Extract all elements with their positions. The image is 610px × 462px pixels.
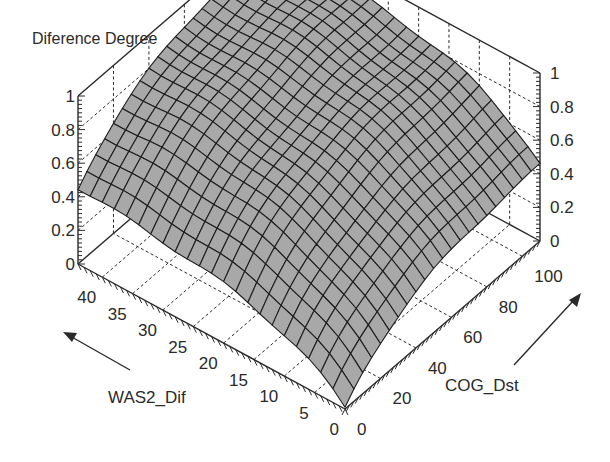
y-tick-label: 60 [463,328,482,347]
x-tick-label: 20 [199,354,218,373]
z-tick-label-right: 0.8 [550,98,574,117]
z-tick-label-right: 0.2 [550,198,574,217]
y-tick-label: 80 [499,298,518,317]
y-tick-label: 20 [392,389,411,408]
x-tick-label: 30 [138,321,157,340]
z-tick-label-left: 0.6 [51,154,75,173]
x-tick-label: 15 [229,371,248,390]
y-direction-arrow-icon [514,293,581,365]
z-tick-label-left: 1 [66,87,75,106]
y-tick-label: 100 [534,267,562,286]
surface-chart: 000.20.20.40.40.60.60.80.811051015202530… [0,0,610,462]
x-tick-label: 25 [168,338,187,357]
x-tick-label: 10 [259,387,278,406]
x-axis-label: WAS2_Dif [108,388,186,407]
y-tick-label: 0 [357,420,366,439]
z-tick-label-right: 1 [550,64,559,83]
z-tick-label-left: 0.8 [51,121,75,140]
y-axis-label: COG_Dst [445,376,519,395]
x-tick-label: 0 [330,420,339,439]
z-tick-label-right: 0.4 [550,165,574,184]
z-tick-label-left: 0.2 [51,221,75,240]
x-tick-label: 5 [299,404,308,423]
x-tick-label: 40 [77,288,96,307]
z-tick-label-left: 0.4 [51,188,75,207]
z-tick-label-left: 0 [66,255,75,274]
z-tick-label-right: 0 [550,232,559,251]
x-direction-arrow-icon [63,332,130,370]
y-tick-label: 40 [428,359,447,378]
z-tick-label-right: 0.6 [550,131,574,150]
chart-title: Diference Degree [32,30,158,47]
y-tick [342,409,345,415]
x-tick-label: 35 [108,305,127,324]
